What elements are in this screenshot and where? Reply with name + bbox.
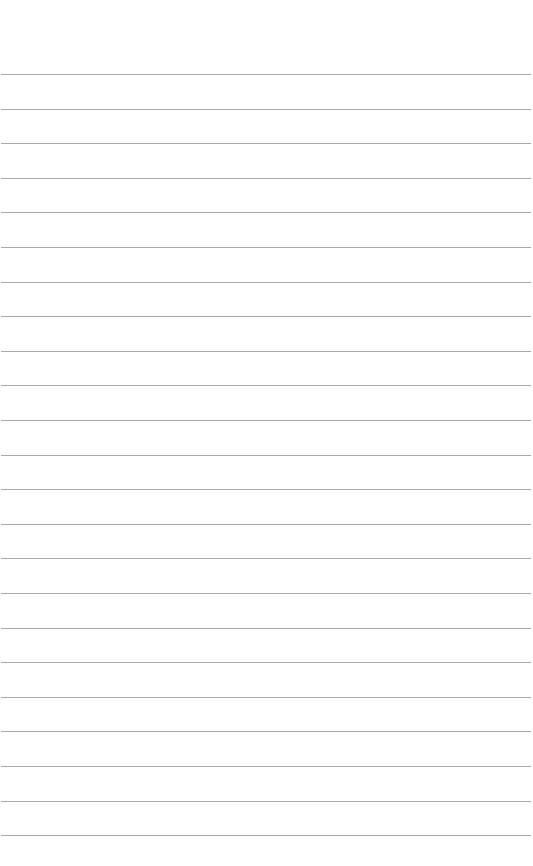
ruled-line (1, 835, 531, 836)
ruled-line (1, 697, 531, 698)
ruled-line (1, 109, 531, 110)
ruled-line (1, 731, 531, 732)
ruled-line (1, 385, 531, 386)
ruled-line (1, 178, 531, 179)
ruled-line (1, 593, 531, 594)
ruled-line (1, 351, 531, 352)
ruled-line (1, 524, 531, 525)
ruled-line (1, 455, 531, 456)
ruled-line (1, 801, 531, 802)
ruled-line (1, 558, 531, 559)
ruled-line (1, 628, 531, 629)
ruled-line (1, 282, 531, 283)
ruled-line (1, 420, 531, 421)
lined-page (0, 0, 533, 866)
ruled-line (1, 662, 531, 663)
ruled-line (1, 212, 531, 213)
ruled-line (1, 316, 531, 317)
ruled-line (1, 74, 531, 75)
ruled-line (1, 489, 531, 490)
ruled-line (1, 247, 531, 248)
ruled-line (1, 143, 531, 144)
ruled-line (1, 766, 531, 767)
